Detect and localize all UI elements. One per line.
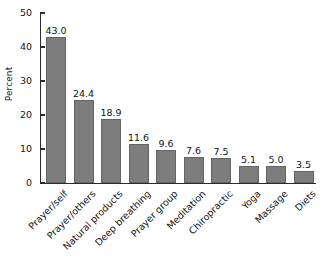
bar: [266, 166, 286, 183]
bar-value-label: 24.4: [67, 88, 101, 99]
x-axis-line: [40, 183, 316, 184]
bar: [184, 157, 204, 183]
bar: [294, 171, 314, 183]
y-axis-tick-label: 10: [20, 143, 32, 155]
y-axis-tick-label: 20: [20, 109, 32, 121]
y-axis-label: Percent: [4, 54, 14, 114]
plot-area: 43.024.418.911.69.67.67.55.15.03.5: [41, 13, 316, 183]
bar: [156, 150, 176, 183]
bar: [46, 37, 66, 183]
bar: [129, 144, 149, 183]
y-axis-tick-label: 30: [20, 75, 32, 87]
bar-chart: Percent 01020304050 43.024.418.911.69.67…: [0, 0, 324, 277]
bar-value-label: 3.5: [287, 159, 321, 170]
bar: [101, 119, 121, 183]
bar-value-label: 18.9: [94, 107, 128, 118]
bar-value-label: 43.0: [39, 25, 73, 36]
y-axis-tick-label: 40: [20, 41, 32, 53]
y-axis-tick-label: 50: [20, 7, 32, 19]
bar: [211, 158, 231, 184]
y-axis-tick-label: 0: [26, 177, 32, 189]
bar: [74, 100, 94, 183]
bar: [239, 166, 259, 183]
